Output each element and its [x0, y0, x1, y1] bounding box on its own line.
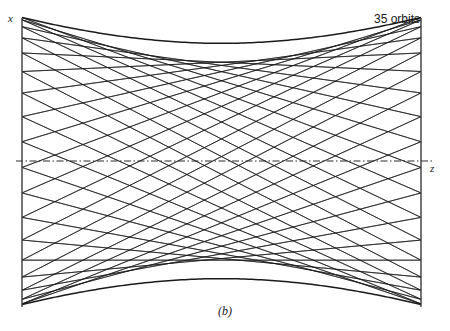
figure-caption: (b) — [0, 304, 450, 319]
axis-label-z: z — [430, 163, 434, 174]
orbit-count-annotation: 35 orbits — [374, 12, 420, 26]
beam-envelope-lower — [22, 279, 421, 305]
axis-label-x: x — [8, 13, 13, 24]
ray-trace-plot — [0, 0, 450, 331]
beam-envelope-upper — [22, 18, 421, 44]
mirror-group — [22, 18, 421, 307]
figure-multipass-cell-ray-trace: x z 35 orbits (b) — [0, 0, 450, 331]
